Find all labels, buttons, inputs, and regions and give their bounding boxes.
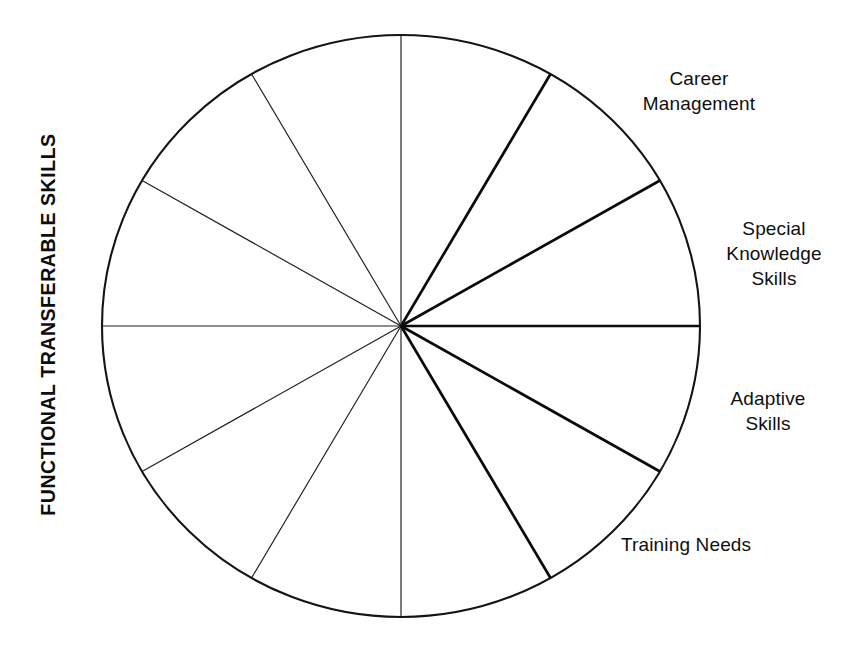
sector-label-special-knowledge-skills: Special Knowledge Skills — [709, 216, 839, 291]
sector-label-career-management: Career Management — [614, 66, 784, 116]
diagram-canvas: FUNCTIONAL TRANSFERABLE SKILLS Career Ma… — [0, 0, 851, 649]
sector-label-training-needs: Training Needs — [621, 532, 831, 557]
sector-label-adaptive-skills: Adaptive Skills — [709, 386, 827, 436]
